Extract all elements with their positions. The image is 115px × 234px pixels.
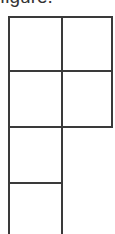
grid-line-right: [111, 16, 113, 128]
caption-text: figure.: [0, 0, 53, 7]
grid-line-left: [8, 16, 10, 234]
grid-line-h3: [8, 182, 63, 184]
grid-line-middle: [61, 16, 63, 234]
